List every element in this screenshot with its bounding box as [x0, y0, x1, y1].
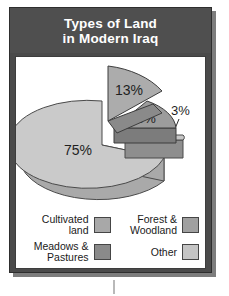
chart-header-bar: Types of Land in Modern Iraq — [10, 8, 211, 53]
legend-item-meadows-pastures[interactable]: Meadows & Pastures — [22, 239, 111, 267]
chart-panel: 75% 3% 9% — [15, 56, 206, 269]
legend-swatch-meadows-pastures — [94, 244, 111, 260]
page-title: Types of Land in Modern Iraq — [63, 16, 159, 46]
legend-item-forest-woodland[interactable]: Forest & Woodland — [111, 211, 200, 239]
legend-label-forest-woodland: Forest & Woodland — [130, 214, 177, 236]
pie-chart: 75% 3% 9% — [16, 57, 205, 205]
legend-label-other: Other — [151, 247, 177, 258]
pie-chart-svg: 75% 3% 9% — [16, 57, 205, 205]
legend-swatch-cultivated-land — [94, 217, 111, 233]
pie-label-13: 13% — [115, 82, 143, 98]
legend-item-other[interactable]: Other — [111, 239, 200, 267]
legend-swatch-forest-woodland — [182, 217, 199, 233]
legend-label-cultivated-land: Cultivated land — [42, 214, 89, 236]
page-bottom-tick-mark — [113, 280, 115, 294]
legend-swatch-other — [182, 244, 199, 260]
chart-title-line-2: in Modern Iraq — [63, 31, 159, 46]
chart-figure-frame: Types of Land in Modern Iraq 75% — [9, 7, 212, 273]
pie-label-75: 75% — [64, 142, 92, 158]
legend-item-cultivated-land[interactable]: Cultivated land — [22, 211, 111, 239]
pie-label-3: 3% — [171, 103, 190, 118]
legend-label-meadows-pastures: Meadows & Pastures — [34, 241, 89, 263]
chart-title-line-1: Types of Land — [64, 16, 157, 31]
chart-legend: Cultivated land Forest & Woodland Meadow… — [16, 207, 205, 268]
